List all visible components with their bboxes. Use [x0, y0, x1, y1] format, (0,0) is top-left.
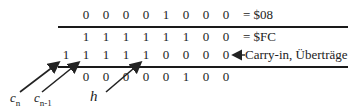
- arrow-cn: [20, 63, 58, 92]
- arrow-h: [106, 63, 140, 92]
- annotation-cn: cn: [10, 91, 20, 106]
- arrows: [0, 0, 362, 106]
- arrow-cn-1: [42, 63, 78, 92]
- annotation-h: h: [90, 89, 98, 103]
- annotation-cn-1: cn-1: [34, 91, 52, 106]
